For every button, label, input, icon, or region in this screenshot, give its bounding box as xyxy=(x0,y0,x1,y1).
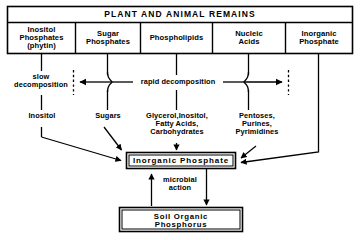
column-header-inorganic-phosphate: Inorganic Phosphate xyxy=(286,30,352,46)
microbial-action-label: microbial action xyxy=(156,176,204,192)
diagram-title: PLANT AND ANIMAL REMAINS xyxy=(8,10,352,19)
product-label-nucleic-acid-products: Pentoses, Purines, Pyrimidines xyxy=(221,112,293,136)
rapid-decomposition-label: rapid decomposition xyxy=(133,78,223,86)
column-header-sugar-phosphates: Sugar Phosphates xyxy=(76,30,140,46)
product-to-phosphate-arrows xyxy=(42,54,319,163)
soil-organic-phosphorus-box-label: Soil Organic Phosphorus xyxy=(120,213,242,230)
product-label-inositol: Inositol xyxy=(12,112,72,120)
column-header-phospholipids: Phospholipids xyxy=(141,34,212,42)
product-label-sugars: Sugars xyxy=(80,112,136,120)
product-label-phospholipid-products: Glycerol,Inositol, Fatty Acids, Carbohyd… xyxy=(133,112,221,136)
column-header-nucleic-acids: Nucleic Acids xyxy=(213,30,285,46)
column-header-inositol-phosphates: Inositol Phosphates (phytin) xyxy=(8,26,75,51)
phosphorus-cycle-diagram: PLANT AND ANIMAL REMAINS Inositol Phosph… xyxy=(0,0,361,240)
slow-decomposition-label: slow decomposition xyxy=(2,73,80,89)
inorganic-phosphate-box-label: Inorganic Phosphate xyxy=(127,157,235,166)
